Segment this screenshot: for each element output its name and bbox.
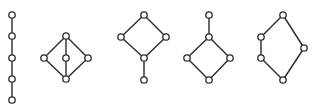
node [184, 55, 190, 61]
node [280, 12, 286, 18]
node [63, 33, 69, 39]
node [9, 97, 15, 103]
node [301, 45, 307, 51]
edge [261, 58, 283, 80]
edge [187, 58, 209, 80]
node [118, 34, 124, 40]
edge [261, 15, 283, 37]
node [280, 77, 286, 83]
node [9, 55, 15, 61]
lattice-diamond-with-bottom-tail [118, 12, 169, 83]
edge [144, 37, 166, 58]
edge [209, 37, 230, 58]
edge [121, 37, 144, 58]
node [206, 12, 212, 18]
node [63, 55, 69, 61]
node [63, 76, 69, 82]
edge [44, 58, 66, 79]
edge [66, 58, 88, 79]
edge [121, 15, 144, 37]
node [9, 33, 15, 39]
lattice-N5 [258, 12, 307, 83]
lattice-diagrams [0, 0, 313, 109]
edge [283, 48, 304, 80]
node [258, 34, 264, 40]
edge [66, 36, 88, 58]
lattice-chain-5 [9, 12, 15, 103]
edge [209, 58, 230, 80]
node [227, 55, 233, 61]
node [9, 12, 15, 18]
node [206, 34, 212, 40]
node [141, 77, 147, 83]
node [85, 55, 91, 61]
edge [44, 36, 66, 58]
edge [283, 15, 304, 48]
node [41, 55, 47, 61]
lattice-diamond-with-top-tail [184, 12, 233, 83]
node [141, 55, 147, 61]
lattice-M3 [41, 33, 91, 82]
node [258, 55, 264, 61]
node [206, 77, 212, 83]
edge [144, 15, 166, 37]
edge [187, 37, 209, 58]
node [141, 12, 147, 18]
node [163, 34, 169, 40]
node [9, 76, 15, 82]
